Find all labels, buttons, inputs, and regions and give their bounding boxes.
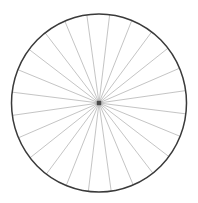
wheel-figure: Spoked wheel: [0, 0, 198, 203]
wheel-diagram-svg: Spoked wheel: [0, 0, 198, 203]
wheel-hub: [97, 101, 102, 106]
